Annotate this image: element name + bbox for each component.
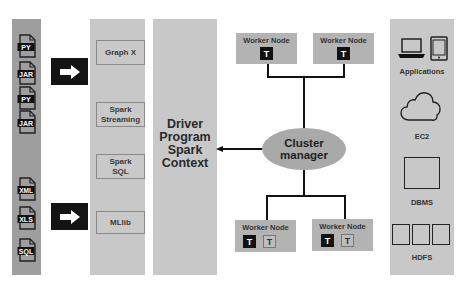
library-label: Spark SQL [109, 157, 131, 177]
connector-line [267, 76, 345, 78]
hdfs-block-icon [392, 224, 410, 245]
svg-text:PY: PY [21, 96, 31, 103]
svg-text:XML: XML [19, 187, 33, 194]
worker-node-label: Worker Node [313, 36, 374, 45]
driver-program-label: Driver Program Spark Context [153, 118, 217, 170]
svg-text:JAR: JAR [19, 71, 33, 78]
arrowhead-icon [216, 145, 223, 153]
resource-label-hdfs: HDFS [390, 253, 454, 262]
xls-file-icon: XLS [17, 206, 37, 230]
worker-node-label: Worker Node [312, 222, 373, 231]
sql-file-icon: SQL [17, 238, 37, 262]
connector-line [303, 169, 305, 196]
connector-line [266, 195, 268, 221]
task: T [321, 234, 334, 247]
cluster-manager: Cluster manager [262, 128, 346, 170]
library-label: Graph X [105, 48, 136, 58]
worker-node-label: Worker Node [236, 36, 297, 45]
library-spark-streaming: Spark Streaming [96, 102, 145, 127]
library-label: Spark Streaming [101, 105, 140, 125]
cluster-manager-line: Cluster [284, 137, 324, 149]
py-file-icon: PY [17, 86, 37, 110]
worker-node: Worker Node T [313, 33, 374, 64]
resource-label-dbms: DBMS [390, 198, 454, 207]
svg-text:PY: PY [21, 44, 31, 51]
jar-file-icon: JAR [17, 110, 37, 134]
task: T [341, 234, 354, 247]
library-mllib: MLlib [96, 211, 145, 234]
svg-text:XLS: XLS [19, 216, 33, 223]
cloud-icon [400, 90, 445, 124]
dbms-box-icon [404, 157, 440, 189]
worker-node: Worker Node T T [312, 219, 373, 251]
driver-line: Context [153, 157, 217, 170]
hdfs-block-icon [412, 224, 430, 245]
task: T [337, 47, 350, 60]
py-file-icon: PY [17, 34, 37, 58]
right-arrow-icon [51, 58, 88, 85]
worker-node: Worker Node T [236, 33, 297, 64]
right-arrow-icon [51, 203, 88, 230]
library-label: MLlib [110, 218, 131, 228]
task: T [243, 235, 256, 248]
resource-label-ec2: EC2 [390, 132, 454, 141]
tablet-icon [430, 36, 448, 61]
task: T [263, 235, 276, 248]
laptop-icon [398, 37, 425, 60]
cluster-manager-line: manager [280, 149, 328, 161]
connector-line [303, 76, 305, 129]
library-graphx: Graph X [96, 40, 145, 65]
resource-label-applications: Applications [390, 67, 454, 76]
connector-line [344, 195, 346, 221]
library-spark-sql: Spark SQL [96, 154, 145, 179]
hdfs-block-icon [432, 224, 450, 245]
worker-node-label: Worker Node [235, 223, 296, 232]
worker-node: Worker Node T T [235, 220, 296, 252]
jar-file-icon: JAR [17, 61, 37, 85]
svg-text:SQL: SQL [19, 248, 34, 256]
svg-text:JAR: JAR [19, 120, 33, 127]
task: T [260, 47, 273, 60]
connector-line [219, 148, 263, 150]
xml-file-icon: XML [17, 177, 37, 201]
connector-line [266, 195, 346, 197]
